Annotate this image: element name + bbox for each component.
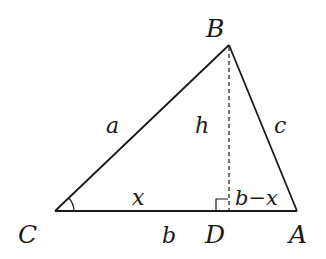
vertex-b-label: B bbox=[205, 14, 224, 43]
side-b-label: b bbox=[162, 223, 176, 248]
right-angle-marker bbox=[216, 199, 228, 211]
vertex-c-label: C bbox=[18, 220, 37, 249]
segment-x-label: x bbox=[132, 185, 145, 210]
triangle-diagram: B C D A a h c x b−x b bbox=[0, 0, 326, 259]
segment-b-minus-x-label: b−x bbox=[235, 186, 278, 210]
side-h-label: h bbox=[195, 113, 209, 138]
diagram-svg: B C D A a h c x b−x b bbox=[0, 0, 326, 259]
angle-c-arc bbox=[69, 198, 74, 211]
vertex-a-label: A bbox=[287, 220, 307, 249]
side-a-label: a bbox=[106, 113, 119, 138]
side-c-label: c bbox=[274, 113, 286, 138]
vertex-d-label: D bbox=[204, 220, 225, 249]
